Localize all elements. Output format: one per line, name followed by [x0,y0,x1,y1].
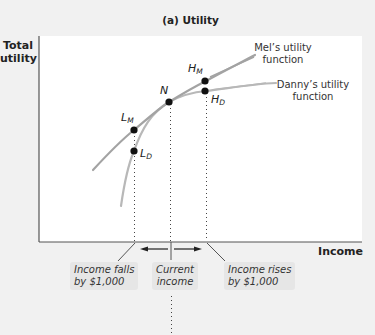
income-rises-line2: by $1,000 [228,276,291,288]
rises-note-leader [207,243,225,261]
falls-note-leader [118,243,135,261]
label-L-D: LD [140,147,152,161]
mel-label-line1: Mel’s utility [248,42,318,54]
label-H-D: HD [211,93,225,107]
point-H-M [201,77,208,84]
current-income-line1: Current [156,264,194,276]
label-N: N [160,84,168,97]
point-H-D [201,87,208,94]
point-L-D [130,147,137,154]
current-income-line2: income [156,276,194,288]
danny-utility-curve [121,83,276,206]
mel-label-line2: function [248,54,318,66]
danny-label-line2: function [268,91,358,103]
label-L-D-sub: D [146,152,152,161]
label-H-M-sub: M [196,67,202,76]
label-H-D-sub: D [219,98,225,107]
danny-label-leader [212,83,266,90]
label-H-M: HM [188,62,203,76]
income-falls-line1: Income falls [74,264,134,276]
income-rises-line1: Income rises [228,264,291,276]
danny-curve-label: Danny’s utility function [268,79,358,103]
point-L-M [130,126,137,133]
mel-curve-label: Mel’s utility function [248,42,318,66]
mel-utility-curve [93,55,255,170]
danny-label-line1: Danny’s utility [268,79,358,91]
point-N [165,98,172,105]
right-arrow-icon [194,247,202,252]
income-falls-line2: by $1,000 [74,276,134,288]
label-L-M: LM [121,111,134,125]
income-rises-note: Income rises by $1,000 [224,262,295,290]
current-income-note: Current income [152,262,198,290]
left-arrow-icon [140,247,148,252]
label-N-letter: N [160,84,168,97]
x-axis-label: Income [318,245,363,258]
income-falls-note: Income falls by $1,000 [70,262,138,290]
label-L-M-sub: M [127,116,133,125]
